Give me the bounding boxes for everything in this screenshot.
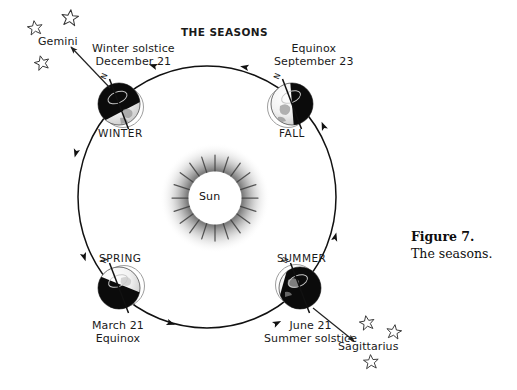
season-label-summer: SUMMER (277, 252, 326, 264)
season-label-fall: FALL (279, 127, 305, 139)
earth-fall: N (268, 72, 318, 129)
constellation-label-gemini: Gemini (38, 36, 78, 49)
sun-label: Sun (199, 191, 220, 204)
figure-caption-number: Figure 7. (411, 228, 511, 245)
fall-event-line2: September 23 (274, 55, 354, 68)
figure-caption: Figure 7. The seasons. (411, 228, 511, 263)
star-icon (386, 324, 403, 340)
constellation-label-sagittarius: Sagittarius (338, 341, 399, 354)
winter-event-line2: December 21 (96, 55, 172, 68)
star-icon (358, 314, 375, 330)
page-title: THE SEASONS (181, 26, 268, 38)
diagram-canvas: N N N (0, 0, 517, 390)
winter-event-line1: Winter solstice (92, 42, 175, 55)
fall-event-line1: Equinox (291, 42, 336, 55)
axis-north-label-winter: N (99, 72, 110, 81)
season-label-winter: WINTER (98, 127, 143, 139)
star-icon (61, 9, 79, 26)
star-icon (27, 20, 44, 36)
star-icon (33, 54, 51, 71)
spring-event-line2: Equinox (96, 332, 141, 345)
fall-event-label: Equinox September 23 (274, 43, 354, 69)
figure-caption-text: The seasons. (411, 245, 511, 262)
star-icon (363, 354, 379, 369)
seasons-diagram: N N N (0, 0, 517, 390)
winter-event-label: Winter solstice December 21 (92, 43, 175, 69)
spring-event-line1: March 21 (92, 319, 144, 332)
spring-event-label: March 21 Equinox (92, 320, 144, 346)
summer-event-line1: June 21 (289, 319, 331, 332)
season-label-spring: SPRING (99, 252, 141, 264)
axis-north-label-fall: N (272, 72, 283, 81)
earth-spring: N (94, 256, 145, 313)
